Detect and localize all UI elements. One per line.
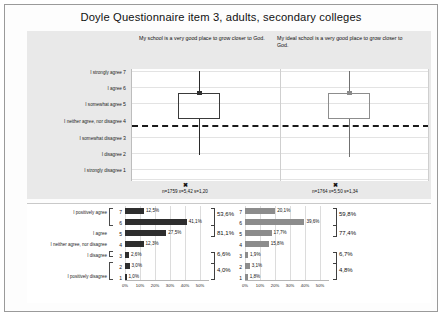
xtick-30: 30% [163,283,177,288]
xtick-40: 40% [178,283,192,288]
bar-5 [125,230,166,236]
stats-right: n=1764 x=5,50 s=1,34 [283,189,387,194]
summary-label-81: 81,1% [217,230,234,236]
category-group-labels-left: I positively agree I agree I neither agr… [27,206,113,286]
stats-left: n=1759 x=5,42 s=1,20 [133,189,237,194]
bar-6 [245,219,304,225]
bar-4 [245,241,269,247]
plot-area-right: 20,1% 39,6% 17,7% 15,8% 1,9% 3,1% 1,8% 0… [245,206,329,288]
cross-marker-right: ✖ [317,181,353,188]
bar-7 [245,208,275,214]
group-label-positively-disagree: I positively disagree [23,274,107,279]
bar-label-6: 41,1% [189,219,202,224]
page-title: Doyle Questionnaire item 3, adults, seco… [5,11,437,23]
cat-number-7: 7 [235,209,242,215]
summary-label-67: 6,7% [339,251,353,257]
bar-label-3: 2,6% [131,252,141,257]
bar-label-1: 1,8% [250,274,260,279]
x-axis-line [245,280,329,281]
boxplot-left [178,69,220,181]
summary-bracket-disagree-low [333,263,337,280]
xtick-20: 20% [148,283,162,288]
gridline-50 [200,206,201,280]
bar-5 [245,230,272,236]
gridline-40 [185,206,186,280]
bracket-positively-disagree [109,262,113,280]
scale-label-6: I agree 6 [26,85,126,91]
whisker-upper [349,71,350,93]
mean-marker [197,91,202,95]
cat-number-3: 3 [115,253,122,259]
xtick-0: 0% [118,283,132,288]
group-label-neither: I neither agree, nor disagree [23,242,107,247]
box-iqr [328,93,370,119]
bar-charts-panel: I positively agree I agree I neither agr… [27,203,431,303]
bar-3 [125,252,129,258]
bar-label-6: 39,6% [306,219,319,224]
bar-2 [245,263,250,269]
whisker-lower [199,119,200,155]
column-header-left: My school is a very good place to grow c… [139,35,267,65]
cat-number-6: 6 [115,220,122,226]
bar-label-4: 12,3% [146,241,159,246]
summary-bracket-disagree-low [211,263,215,280]
whisker-upper [199,71,200,93]
summary-label-774: 77,4% [339,230,356,236]
bar-label-3: 1,9% [250,252,260,257]
cross-marker-left: ✖ [167,181,203,188]
xtick-50: 50% [313,283,327,288]
bar-chart-right: 7 6 5 4 3 2 1 20,1% [233,206,431,302]
bar-label-7: 20,1% [277,208,290,213]
figure-page: Doyle Questionnaire item 3, adults, seco… [4,4,438,312]
panel-divider [280,69,281,181]
cat-number-3: 3 [235,253,242,259]
xtick-0: 0% [238,283,252,288]
scale-label-7: I strongly agree 7 [26,69,126,75]
summary-label-598: 59,8% [339,211,356,217]
boxplot-panel: My school is a very good place to grow c… [27,31,431,199]
bracket-positively-agree [109,208,113,226]
cat-number-4: 4 [235,242,242,248]
xtick-20: 20% [268,283,282,288]
gridline-30 [290,206,291,280]
group-label-disagree: I disagree [23,253,107,258]
mean-marker [347,91,352,95]
scale-label-2: I disagree 2 [26,151,126,157]
bar-chart-left: I positively agree I agree I neither agr… [27,206,229,302]
summary-label-66: 6,6% [217,251,231,257]
boxplot-right [328,69,370,181]
bar-label-7: 12,5% [146,208,159,213]
bar-label-5: 27,5% [168,230,181,235]
bar-label-5: 17,7% [274,230,287,235]
gridline-30 [170,206,171,280]
bar-label-1: 1,0% [129,274,139,279]
cat-number-2: 2 [115,264,122,270]
plot-area-left: 12,5% 41,1% 27,5% 12,3% 2,6% 3,0% 1,0% 0… [125,206,209,288]
cat-number-7: 7 [115,209,122,215]
cat-number-1: 1 [115,275,122,281]
bracket-disagree [109,251,113,257]
bar-1 [245,274,248,280]
summary-label-40: 4,0% [217,267,231,273]
group-label-positively-agree: I positively agree [23,210,107,215]
gridline-40 [305,206,306,280]
cat-number-5: 5 [235,231,242,237]
xtick-30: 30% [283,283,297,288]
xtick-10: 10% [133,283,147,288]
scale-label-5: I somewhat agree 5 [26,101,126,107]
boxplot-plot-area [131,69,429,181]
bar-label-4: 15,8% [271,241,284,246]
panel-divider-right [428,69,429,181]
scale-label-4: I neither agree, nor disagree 4 [26,118,126,124]
bar-7 [125,208,144,214]
xtick-50: 50% [193,283,207,288]
bar-3 [245,252,248,258]
scale-label-1: I strongly disagree 1 [26,167,126,173]
summary-label-48: 4,8% [339,267,353,273]
bar-label-2: 3,0% [132,263,142,268]
bar-4 [125,241,144,247]
gridline-50 [320,206,321,280]
summary-bracket-agree-all [333,208,337,237]
boxplot-scale-labels: I strongly agree 7 I agree 6 I somewhat … [27,69,129,181]
cat-number-6: 6 [235,220,242,226]
